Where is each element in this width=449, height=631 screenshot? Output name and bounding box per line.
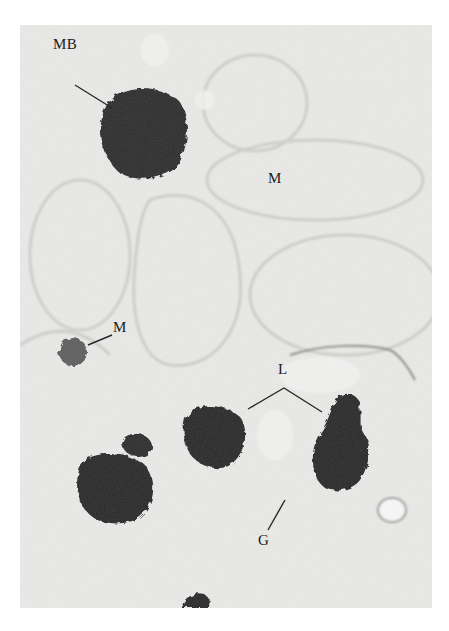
micrograph-drawing <box>20 25 432 608</box>
label-l: L <box>278 362 288 377</box>
label-mb: MB <box>53 37 77 52</box>
label-m-lower: M <box>113 320 127 335</box>
label-m-upper: M <box>268 171 282 186</box>
micrograph: MB M M L G <box>20 25 432 608</box>
label-g: G <box>258 533 269 548</box>
